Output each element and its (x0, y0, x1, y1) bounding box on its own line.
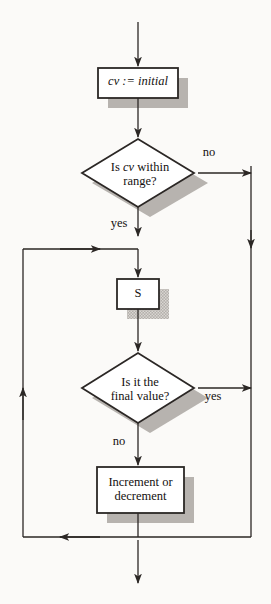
flowchart-graphics (0, 0, 271, 604)
process-increment-box (97, 467, 184, 513)
edge-label-decision2-no: no (106, 435, 132, 448)
process-init-box (98, 68, 178, 98)
process-s-box (117, 279, 159, 309)
flowchart-canvas: cv := initial Is cv withinrange? S Is it… (0, 0, 271, 604)
edge-label-decision1-no: no (196, 146, 222, 159)
edge-label-decision1-yes: yes (106, 217, 132, 230)
edge-label-decision2-yes: yes (200, 390, 226, 403)
